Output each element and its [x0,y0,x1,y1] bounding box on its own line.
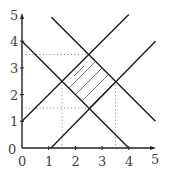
y-tick-1: 1 [10,114,18,129]
x-tick-labels: 0 1 2 3 4 5 [18,152,159,169]
x-tick-2: 2 [72,154,80,169]
x-axis-arrow-icon [150,146,156,150]
y-tick-labels: 0 1 2 3 4 5 [8,8,18,157]
x-tick-4: 4 [125,154,133,169]
y-tick-4: 4 [10,34,18,49]
line-x-plus-y-4 [22,41,129,148]
line-x-plus-y-6 [51,17,155,121]
line-y-eq-x-minus-1 [51,41,156,148]
y-tick-3: 3 [10,61,18,76]
y-tick-2: 2 [10,88,18,103]
y-tick-5: 5 [10,8,18,23]
x-tick-3: 3 [98,154,106,169]
diagram-canvas: 0 1 2 3 4 5 0 1 2 3 4 5 [0,0,171,173]
y-tick-0: 0 [8,142,16,157]
x-tick-0: 0 [18,154,26,169]
hatched-region [69,62,115,108]
x-tick-1: 1 [45,154,53,169]
x-tick-5: 5 [151,152,159,167]
y-axis-arrow-icon [20,13,24,19]
line-y-eq-x-plus-1 [22,15,129,122]
tick-marks [20,41,129,150]
